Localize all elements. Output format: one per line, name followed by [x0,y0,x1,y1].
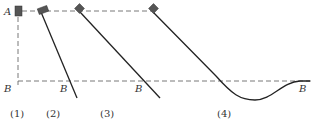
block-1 [15,6,22,16]
incline-3 [80,12,160,98]
block-2 [37,5,48,14]
label-B-4: B [298,83,306,94]
track-diagram: A B B B B (1) (2) (3) (4) [0,0,316,124]
track-4 [153,12,310,100]
label-B-3: B [134,83,142,94]
label-B-left: B [3,83,11,94]
caption-3: (3) [100,108,114,119]
block-4 [149,4,159,14]
incline-2 [41,12,77,98]
block-3 [75,4,85,14]
label-A: A [3,6,11,17]
caption-1: (1) [10,108,24,119]
caption-4: (4) [217,108,231,119]
caption-2: (2) [46,108,60,119]
label-B-2: B [59,83,67,94]
